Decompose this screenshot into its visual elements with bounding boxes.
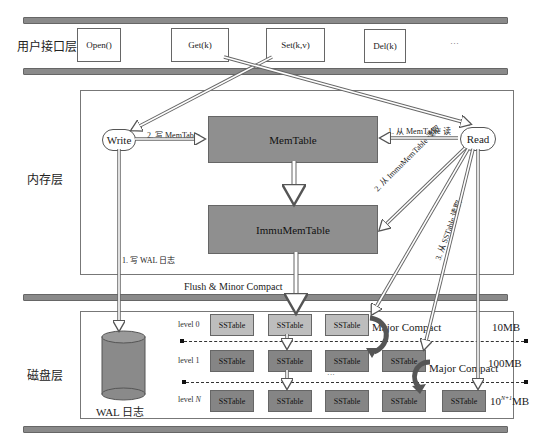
sstable-l1-1: SSTable xyxy=(210,350,254,372)
level-0-label: level 0 xyxy=(178,320,200,329)
layer-bar-top xyxy=(23,17,508,24)
sstable-l1-4: SSTable xyxy=(382,350,426,372)
flush-note: Flush & Minor Compact xyxy=(184,281,283,292)
major-compact-label-1: Major Compact xyxy=(372,321,441,333)
dash-end-dot-1 xyxy=(524,339,528,343)
read-node: Read xyxy=(460,127,496,151)
layer-bar-disk-bottom xyxy=(23,426,508,433)
write-memtable-note: 2. 写 MemTable xyxy=(147,129,200,140)
api-del[interactable]: Del(k) xyxy=(364,29,406,63)
write-wal-note: 1. 写 WAL 日志 xyxy=(122,254,175,265)
size-exp: N+1 xyxy=(501,395,512,401)
sstable-ln-2: SSTable xyxy=(268,390,312,412)
layer-bar-api-bottom xyxy=(23,68,508,75)
memtable-box: MemTable xyxy=(208,116,378,163)
layer-bar-memory-bottom xyxy=(23,294,508,301)
api-get[interactable]: Get(k) xyxy=(171,28,229,62)
level-separator-1 xyxy=(184,341,524,342)
sstable-l0-1: SSTable xyxy=(210,314,254,336)
level-n-label: level N xyxy=(178,395,201,404)
api-set[interactable]: Set(k,v) xyxy=(266,28,325,62)
level-0-size: 10MB xyxy=(492,321,520,333)
layer-label-api: 用户接口层 xyxy=(17,37,77,55)
sstable-ln-4: SSTable xyxy=(382,390,426,412)
api-more: ··· xyxy=(450,38,459,48)
level-separator-2 xyxy=(186,382,524,383)
sstable-ln-1: SSTable xyxy=(210,390,254,412)
major-compact-label-2: Major Compact xyxy=(429,362,498,374)
sstable-ln-5: SSTable xyxy=(442,390,486,412)
layer-label-memory: 内存层 xyxy=(27,170,63,188)
sstable-l1-2: SSTable xyxy=(268,350,312,372)
size-unit: MB xyxy=(512,395,529,407)
sstable-l1-3: SSTable xyxy=(325,350,369,372)
sstable-ln-3: SSTable xyxy=(325,390,369,412)
size-base: 10 xyxy=(490,395,501,407)
wal-label: WAL 日志 xyxy=(96,403,144,419)
level-1-label: level 1 xyxy=(178,356,200,365)
dash-end-dot-2 xyxy=(524,380,528,384)
immutable-memtable-box: ImmuMemTable xyxy=(208,205,378,254)
level-n-size: 10N+1MB xyxy=(490,395,529,407)
write-node: Write xyxy=(102,129,136,151)
level-1-ellipsis: ··· xyxy=(327,370,335,379)
api-open[interactable]: Open() xyxy=(77,28,121,62)
sstable-l0-3: SSTable xyxy=(325,314,369,336)
layer-label-disk: 磁盘层 xyxy=(27,366,63,384)
sstable-l0-2: SSTable xyxy=(268,314,312,336)
